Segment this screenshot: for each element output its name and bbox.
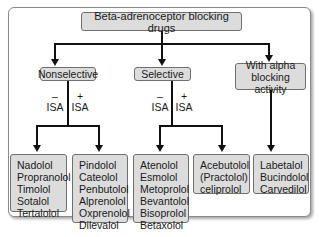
isa-text: ISA (70, 102, 90, 113)
isa-plus-label: + ISA (174, 91, 194, 113)
drug-name: Pindolol (79, 159, 127, 171)
drug-name: Carvedilol (260, 183, 308, 195)
arrow-down-icon (158, 59, 166, 66)
drug-name: Timolol (17, 183, 66, 195)
connector-to-nonselective (54, 43, 56, 60)
arrow-down-icon (95, 145, 103, 152)
isa-minus-label: – ISA (150, 91, 170, 113)
connector-nonselective-plus (98, 125, 100, 146)
connector-selective-branch (159, 125, 222, 127)
drug-name: Sotalol (17, 195, 66, 207)
drug-name: Esmolol (140, 171, 188, 183)
drug-name: Metoprolol (140, 183, 188, 195)
drug-list-selective-plus-isa: Acebutolol (Practolol) celiprolol (193, 154, 250, 194)
category-selective: Selective (134, 67, 191, 81)
drug-name: Nadolol (17, 159, 66, 171)
drug-list-nonselective-minus-isa: Nadolol Propranolol Timolol Sotalol Tert… (10, 154, 67, 212)
connector-nonselective-stem (67, 81, 69, 126)
connector-selective-plus (221, 125, 223, 146)
drug-name: Penbutolol (79, 183, 127, 195)
drug-list-selective-minus-isa: Atenolol Esmolol Metoprolol Bevantolol B… (133, 154, 189, 223)
isa-minus-label: – ISA (45, 91, 65, 113)
drug-name: Betaxolol (140, 219, 188, 231)
drug-name: Tertalolol (17, 207, 66, 219)
drug-name: Dilevalol (79, 219, 127, 231)
category-nonselective: Nonselective (40, 67, 96, 81)
arrow-down-icon (156, 145, 164, 152)
connector-alpha-stem (270, 90, 272, 146)
drug-name: Atenolol (140, 159, 188, 171)
arrow-down-icon (267, 145, 275, 152)
isa-text: ISA (45, 102, 65, 113)
isa-text: ISA (174, 102, 194, 113)
connector-to-selective (161, 43, 163, 60)
isa-plus-label: + ISA (70, 91, 90, 113)
drug-name: Propranolol (17, 171, 66, 183)
category-label: Nonselective (38, 68, 98, 80)
drug-name: Acebutolol (200, 159, 249, 171)
arrow-down-icon (33, 145, 41, 152)
drug-name: Cateolol (79, 171, 127, 183)
drug-name: Labetalol (260, 159, 308, 171)
isa-text: ISA (150, 102, 170, 113)
title-text: Beta-adrenoceptor blocking drugs (82, 10, 241, 34)
drug-name: Bisoprolol (140, 207, 188, 219)
drug-list-nonselective-plus-isa: Pindolol Cateolol Penbutolol Alprenolol … (72, 154, 128, 223)
connector-nonselective-branch (36, 125, 99, 127)
connector-selective-minus (159, 125, 161, 146)
arrow-down-icon (218, 145, 226, 152)
drug-name: celiprolol (200, 183, 249, 195)
drug-name: Oxprenolol (79, 207, 127, 219)
category-alpha-blocking: With alpha blocking activity (235, 63, 306, 90)
arrow-down-icon (51, 59, 59, 66)
drug-name: Alprenolol (79, 195, 127, 207)
connector-selective-stem (171, 81, 173, 126)
title-box: Beta-adrenoceptor blocking drugs (81, 12, 242, 31)
drug-name: (Practolol) (200, 171, 249, 183)
connector-nonselective-minus (36, 125, 38, 146)
drug-name: Bevantolol (140, 195, 188, 207)
drug-list-alpha-blocking: Labetalol Bucindolol Carvedilol (253, 154, 309, 194)
drug-name: Bucindolol (260, 171, 308, 183)
category-label: Selective (141, 68, 184, 80)
